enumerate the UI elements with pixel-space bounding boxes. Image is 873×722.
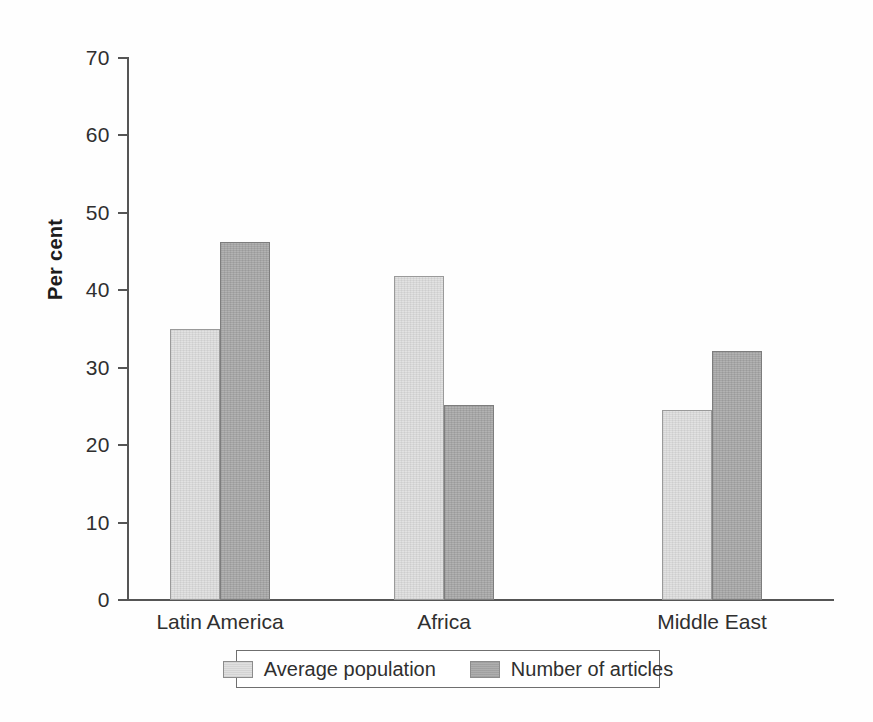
light-gray-swatch: [223, 661, 253, 678]
bar-africa-average-population: [394, 276, 444, 600]
x-axis-category-label: Middle East: [657, 610, 767, 634]
bar-latin-america-average-population: [170, 329, 220, 600]
dark-gray-swatch: [470, 661, 500, 678]
bar-africa-number-of-articles: [444, 405, 494, 600]
bar-chart-figure: Per cent 706050403020100 Latin AmericaAf…: [0, 0, 873, 722]
y-axis-tick-mark: [118, 212, 128, 214]
y-axis-tick-label: 60: [50, 124, 110, 145]
x-axis-category-label: Africa: [417, 610, 471, 634]
y-axis-tick-mark: [118, 367, 128, 369]
y-axis-tick-label: 50: [50, 202, 110, 223]
bar-middle-east-number-of-articles: [712, 351, 762, 600]
legend-label: Number of articles: [511, 659, 673, 679]
y-axis-tick-label: 20: [50, 434, 110, 455]
y-axis-tick-label: 0: [50, 589, 110, 610]
y-axis-tick-mark: [118, 599, 128, 601]
y-axis-tick-mark: [118, 522, 128, 524]
y-axis-tick-mark: [118, 57, 128, 59]
y-axis-tick-label: 70: [50, 47, 110, 68]
y-axis-tick-mark: [118, 444, 128, 446]
y-axis-tick-label: 30: [50, 357, 110, 378]
bar-middle-east-average-population: [662, 410, 712, 600]
bar-latin-america-number-of-articles: [220, 242, 270, 600]
legend-entry: Number of articles: [470, 659, 673, 679]
legend-entry: Average population: [223, 659, 436, 679]
y-axis-tick-mark: [118, 134, 128, 136]
x-axis-category-label: Latin America: [156, 610, 283, 634]
y-axis-tick-label: 10: [50, 512, 110, 533]
chart-legend: Average populationNumber of articles: [236, 650, 660, 688]
y-axis-tick-mark: [118, 289, 128, 291]
legend-label: Average population: [264, 659, 436, 679]
y-axis-tick-label: 40: [50, 279, 110, 300]
plot-area: [128, 58, 833, 600]
